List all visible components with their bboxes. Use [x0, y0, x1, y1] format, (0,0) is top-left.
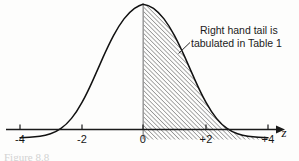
x-tick-label-minus2: -2: [77, 133, 87, 145]
x-tick-label-plus4: +4: [262, 133, 275, 145]
x-tick-label-minus4: -4: [15, 133, 25, 145]
figure-caption: Figure 8.8: [4, 151, 49, 161]
x-tick-label-zero: 0: [140, 133, 146, 145]
tail-annotation-line-2: tabulated in Table 1: [191, 37, 297, 50]
shaded-tail-region: [143, 0, 269, 140]
tail-annotation: Right hand tail is tabulated in Table 1: [191, 24, 297, 50]
x-tick-label-plus2: +2: [200, 133, 213, 145]
tail-annotation-line-1: Right hand tail is: [191, 24, 297, 37]
normal-distribution-figure: -4 -2 0 +2 +4 z Right hand tail is tabul…: [0, 0, 299, 161]
x-axis-name-label: z: [281, 125, 286, 141]
